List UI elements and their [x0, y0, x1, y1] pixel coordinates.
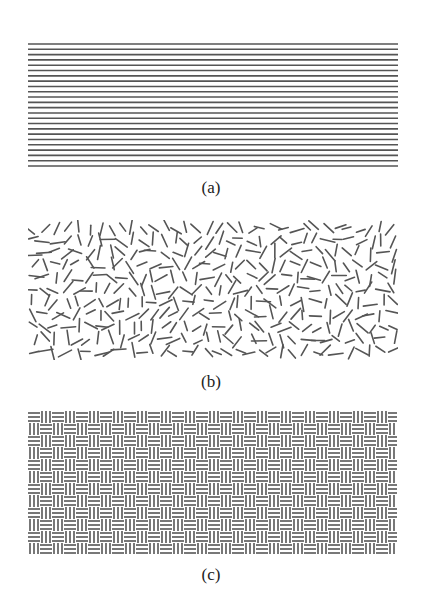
basketweave-graphic — [28, 411, 397, 554]
panel-c-basketweave — [28, 411, 397, 554]
panel-c-label: (c) — [181, 565, 241, 585]
panel-b-label: (b) — [181, 372, 241, 392]
horizontal-lines-graphic — [28, 42, 398, 168]
panel-b-random-segments — [28, 220, 398, 360]
random-segments-graphic — [28, 220, 398, 360]
panel-a-horizontal-lines — [28, 42, 398, 168]
panel-a-label: (a) — [181, 178, 241, 198]
